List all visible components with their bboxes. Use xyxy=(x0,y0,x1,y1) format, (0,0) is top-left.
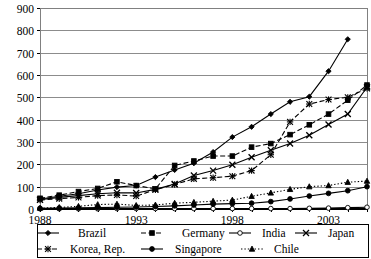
y-tick-label: 700 xyxy=(17,48,35,60)
y-tick-label: 400 xyxy=(17,115,35,127)
data-point-circle-filled xyxy=(345,188,350,193)
data-point-asterisk xyxy=(364,85,370,91)
data-point-circle-open xyxy=(307,206,312,211)
legend-label: Japan xyxy=(328,227,354,240)
legend-label: India xyxy=(262,227,286,239)
data-point-asterisk xyxy=(345,94,351,100)
data-point-circle-open xyxy=(249,206,254,211)
y-tick-label: 100 xyxy=(17,182,35,194)
data-point-square xyxy=(150,231,155,236)
line-chart-figure: 0100200300400500600700800900 19881993199… xyxy=(0,0,371,259)
data-point-asterisk xyxy=(37,197,43,203)
data-point-asterisk xyxy=(325,96,331,102)
y-tick-label: 200 xyxy=(17,159,35,171)
data-point-circle-open xyxy=(326,206,331,211)
legend-label: Chile xyxy=(274,243,299,255)
data-point-circle-filled xyxy=(249,201,254,206)
data-point-asterisk xyxy=(229,173,235,179)
data-point-square xyxy=(307,123,312,128)
plot-background xyxy=(40,8,367,209)
data-point-square xyxy=(192,159,197,164)
data-point-square xyxy=(134,183,139,188)
y-tick-label: 500 xyxy=(17,92,35,104)
data-point-circle-filled xyxy=(307,194,312,199)
data-point-asterisk xyxy=(133,193,139,199)
data-point-circle-filled xyxy=(326,191,331,196)
data-point-circle-filled xyxy=(268,199,273,204)
data-point-square xyxy=(95,186,100,191)
y-tick-label: 600 xyxy=(17,70,35,82)
data-point-circle-open xyxy=(211,206,216,211)
data-point-asterisk xyxy=(152,187,158,193)
data-point-asterisk xyxy=(171,181,177,187)
data-point-asterisk xyxy=(268,152,274,158)
legend-label: Singapore xyxy=(175,243,222,256)
chart-canvas: 0100200300400500600700800900 19881993199… xyxy=(0,0,371,259)
y-tick-label: 800 xyxy=(17,25,35,37)
data-point-circle-open xyxy=(345,205,350,210)
chart-legend: BrazilGermanyIndiaJapanKorea, Rep.Singap… xyxy=(37,224,368,257)
data-point-asterisk xyxy=(210,175,216,181)
data-point-square xyxy=(249,145,254,150)
data-point-asterisk xyxy=(306,101,312,107)
data-point-asterisk xyxy=(248,167,254,173)
data-point-circle-filled xyxy=(150,247,155,252)
data-point-square xyxy=(230,154,235,159)
legend-label: Germany xyxy=(182,227,225,240)
data-point-asterisk xyxy=(114,192,120,198)
y-tick-label: 900 xyxy=(17,3,35,15)
data-point-square xyxy=(115,179,120,184)
data-point-asterisk xyxy=(287,119,293,125)
data-point-square xyxy=(172,163,177,168)
data-point-circle-filled xyxy=(365,184,370,189)
data-point-square xyxy=(211,154,216,159)
legend-label: Brazil xyxy=(78,227,106,239)
data-point-circle-open xyxy=(365,205,370,210)
data-point-asterisk xyxy=(95,192,101,198)
data-point-asterisk xyxy=(75,194,81,200)
y-tick-label: 300 xyxy=(17,137,35,149)
data-point-asterisk xyxy=(191,176,197,182)
data-point-circle-open xyxy=(288,206,293,211)
data-point-square xyxy=(326,112,331,117)
legend-label: Korea, Rep. xyxy=(70,243,125,256)
data-point-asterisk xyxy=(45,246,51,252)
data-point-circle-open xyxy=(230,206,235,211)
data-point-asterisk xyxy=(56,196,62,202)
data-point-square xyxy=(288,132,293,137)
data-point-circle-open xyxy=(269,206,274,211)
data-point-circle-open xyxy=(238,231,243,236)
data-point-circle-filled xyxy=(288,197,293,202)
data-point-square xyxy=(269,141,274,146)
y-axis-tick-labels: 0100200300400500600700800900 xyxy=(17,3,35,216)
